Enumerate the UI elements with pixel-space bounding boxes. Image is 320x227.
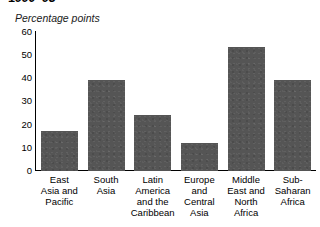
bar-series (36, 31, 316, 171)
bar-latin-america-and-the-caribbean (134, 115, 171, 171)
bar-sub-saharan-africa (274, 80, 311, 171)
y-tick-label: 60 (6, 27, 32, 36)
y-tick-label: 0 (6, 166, 32, 175)
y-axis-tick-labels: 60 50 40 30 20 10 0 (0, 0, 32, 227)
y-tick-label: 10 (6, 143, 32, 152)
bar-slot (36, 31, 83, 171)
x-label-europe-and-central-asia: EuropeandCentralAsia (176, 174, 223, 218)
bar-middle-east-and-north-africa (228, 47, 265, 171)
y-tick-label: 20 (6, 120, 32, 129)
bar-slot (83, 31, 130, 171)
bar-europe-and-central-asia (181, 143, 218, 171)
x-axis-category-labels: EastAsia andPacific SouthAsia LatinAmeri… (36, 174, 316, 218)
bar-slot (223, 31, 270, 171)
x-label-south-asia: SouthAsia (83, 174, 130, 218)
x-label-latin-america-and-the-caribbean: LatinAmericaand theCaribbean (129, 174, 176, 218)
bar-slot (129, 31, 176, 171)
chart-figure: 1990–93 Percentage points 60 50 40 30 20… (0, 0, 320, 227)
y-tick-label: 50 (6, 50, 32, 59)
x-label-east-asia-and-pacific: EastAsia andPacific (36, 174, 83, 218)
bar-slot (269, 31, 316, 171)
y-tick-label: 30 (6, 96, 32, 105)
bar-east-asia-and-pacific (41, 131, 78, 171)
x-label-sub-saharan-africa: Sub-SaharanAfrica (269, 174, 316, 218)
y-tick-label: 40 (6, 73, 32, 82)
x-label-middle-east-and-north-africa: MiddleEast andNorthAfrica (223, 174, 270, 218)
bar-slot (176, 31, 223, 171)
bar-south-asia (88, 80, 125, 171)
